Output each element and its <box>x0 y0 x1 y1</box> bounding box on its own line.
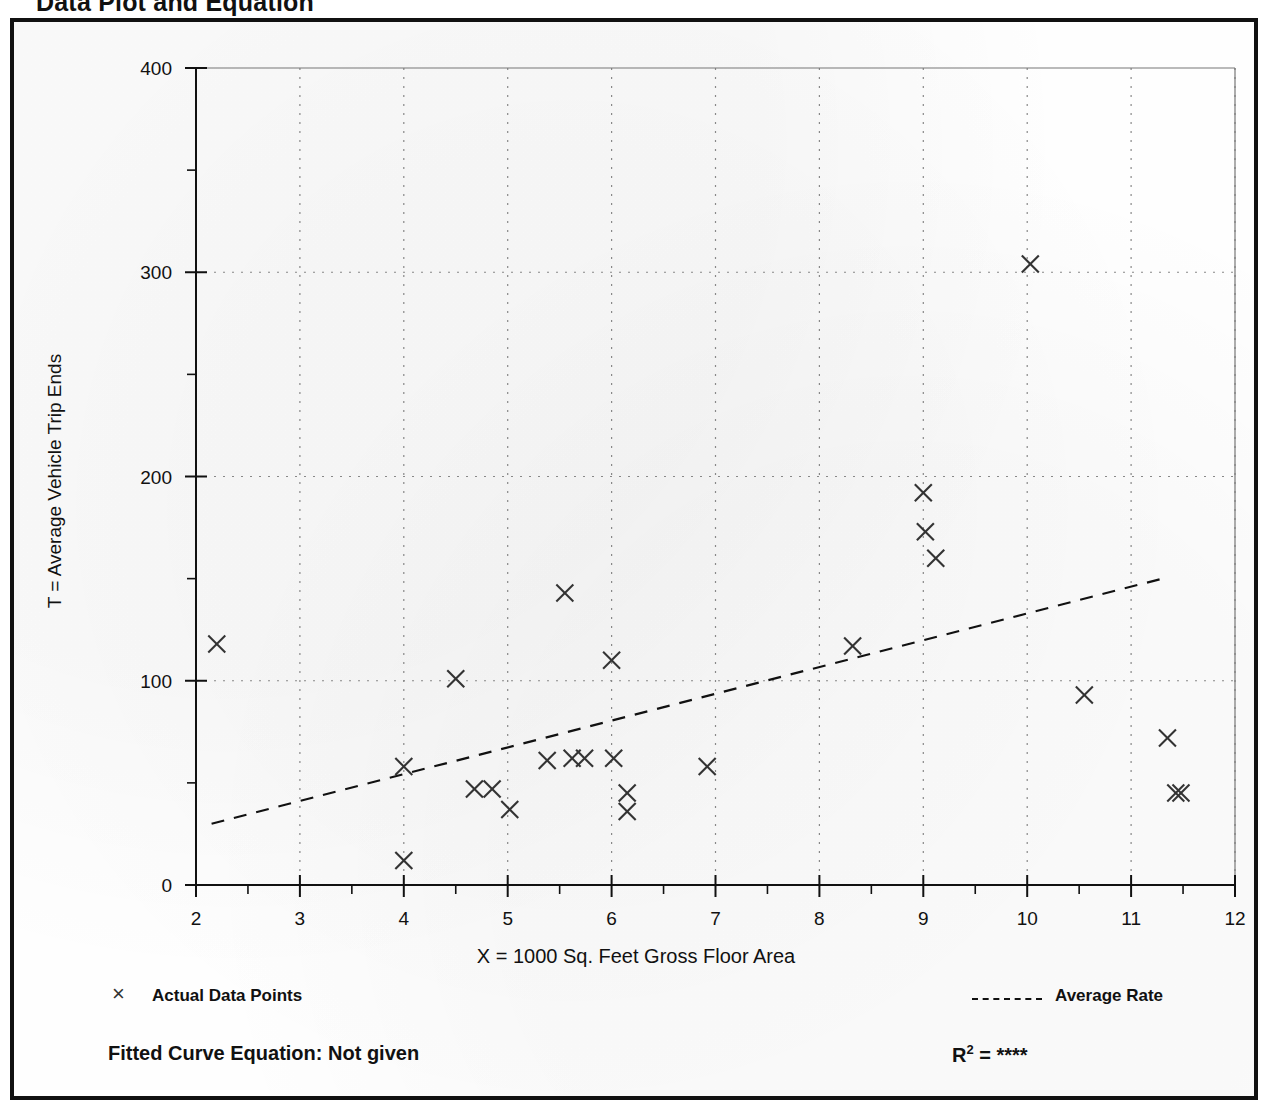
legend-item-actual-data-points: Actual Data Points <box>152 986 302 1006</box>
y-axis-tick-label: 400 <box>140 58 172 79</box>
data-point-marker <box>605 750 622 767</box>
x-axis-tick-label: 10 <box>1017 908 1038 929</box>
data-point-marker <box>844 638 861 655</box>
legend-marker-x-icon: × <box>112 983 125 1005</box>
data-point-marker <box>1022 256 1039 273</box>
x-axis-tick-label: 11 <box>1121 908 1141 929</box>
x-axis-title: X = 1000 Sq. Feet Gross Floor Area <box>0 945 1272 968</box>
legend-item-average-rate: Average Rate <box>1055 986 1163 1006</box>
data-point-marker <box>447 670 464 687</box>
y-axis-tick-label: 300 <box>140 262 172 283</box>
y-axis-title: T = Average Vehicle Trip Ends <box>44 321 66 641</box>
data-point-marker <box>927 550 944 567</box>
x-axis-tick-label: 2 <box>191 908 202 929</box>
data-point-marker <box>539 752 556 769</box>
average-rate-line <box>212 579 1163 824</box>
data-point-marker <box>466 781 483 798</box>
data-point-marker <box>619 803 636 820</box>
data-point-marker <box>1076 687 1093 704</box>
r2-prefix: R <box>952 1044 966 1066</box>
y-axis-tick-label: 0 <box>161 875 172 896</box>
x-axis-tick-label: 5 <box>502 908 513 929</box>
x-axis-tick-label: 8 <box>814 908 825 929</box>
x-axis-tick-label: 9 <box>918 908 929 929</box>
x-axis-tick-label: 4 <box>399 908 410 929</box>
data-point-marker <box>619 785 636 802</box>
data-point-marker <box>484 781 501 798</box>
data-point-marker <box>395 852 412 869</box>
fitted-curve-equation: Fitted Curve Equation: Not given <box>108 1042 419 1065</box>
x-axis-tick-label: 3 <box>295 908 306 929</box>
data-point-marker <box>917 523 934 540</box>
data-point-marker <box>556 584 573 601</box>
r-squared-value: R2 = **** <box>952 1042 1028 1067</box>
x-axis-tick-label: 7 <box>710 908 721 929</box>
legend-marker-dashed-line-icon <box>972 998 1042 1000</box>
data-point-marker <box>395 758 412 775</box>
data-point-marker <box>915 484 932 501</box>
data-point-marker <box>576 750 593 767</box>
y-axis-tick-label: 100 <box>140 671 172 692</box>
data-point-marker <box>208 635 225 652</box>
x-axis-tick-label: 12 <box>1224 908 1245 929</box>
data-point-marker <box>699 758 716 775</box>
x-axis-tick-label: 6 <box>606 908 617 929</box>
data-point-marker <box>1159 729 1176 746</box>
r2-exponent: 2 <box>966 1042 973 1057</box>
r2-equals-value: = **** <box>979 1044 1027 1066</box>
y-axis-tick-label: 200 <box>140 467 172 488</box>
data-point-marker <box>501 801 518 818</box>
